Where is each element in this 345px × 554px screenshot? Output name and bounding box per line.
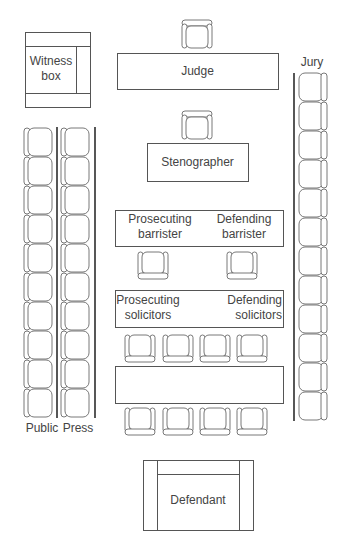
defending-barrister-label-line2: barrister [207, 227, 281, 242]
defendant-label: Defendant [157, 493, 239, 508]
public-label: Public [22, 421, 62, 436]
defending-solicitors-label-line1: Defending [218, 293, 282, 308]
defending-solicitors-label: Defending solicitors [218, 293, 282, 323]
prosecuting-solicitors-label-line2: solicitors [116, 308, 180, 323]
prosecuting-barrister-label: Prosecuting barrister [118, 212, 202, 242]
stenographer-chair [182, 111, 212, 139]
prosecuting-solicitors-label-line1: Prosecuting [116, 293, 180, 308]
defending-barrister-chair [227, 252, 257, 279]
stenographer-label: Stenographer [147, 155, 248, 170]
prosecuting-barrister-chair [138, 252, 168, 279]
prosecuting-solicitors-label: Prosecuting solicitors [116, 293, 180, 323]
judge-label: Judge [117, 64, 278, 79]
prosecuting-barrister-label-line1: Prosecuting [118, 212, 202, 227]
defending-barrister-label: Defending barrister [207, 212, 281, 242]
judge-chair [182, 20, 212, 48]
defending-barrister-label-line1: Defending [207, 212, 281, 227]
witness-box-label: Witness box [26, 54, 76, 84]
jury-label: Jury [292, 55, 332, 70]
witness-box-label-line2: box [26, 69, 76, 84]
solicitor-rear-table [116, 367, 284, 404]
witness-box-label-line1: Witness [26, 54, 76, 69]
public-seating [24, 128, 52, 417]
press-seating [61, 128, 89, 417]
solicitor-chairs-front-row [125, 335, 267, 362]
solicitor-chairs-back-row [125, 408, 267, 435]
jury-seating [299, 73, 327, 420]
defending-solicitors-label-line2: solicitors [218, 308, 282, 323]
press-label: Press [59, 421, 97, 436]
prosecuting-barrister-label-line2: barrister [118, 227, 202, 242]
